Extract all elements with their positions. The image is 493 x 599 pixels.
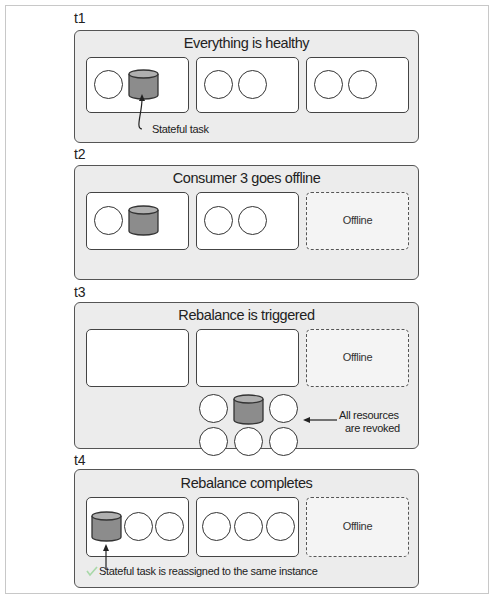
annotation-revoked-line1: All resources	[339, 409, 399, 421]
step-label-t3: t3	[74, 284, 85, 300]
annotation-revoked-line2: are revoked	[345, 422, 400, 434]
task-icon	[94, 206, 123, 235]
annotation-reassigned: Stateful task is reassigned to the same …	[99, 565, 318, 577]
stateful-task-icon	[128, 205, 159, 236]
step-label-t1: t1	[74, 10, 85, 26]
panel-t1: Everything is healthy Stateful task	[74, 30, 419, 143]
step-label-t2: t2	[74, 146, 85, 162]
panel-t2: Consumer 3 goes offline Offline	[74, 165, 419, 280]
offline-label: Offline	[307, 214, 408, 226]
panel-title: Consumer 3 goes offline	[75, 170, 418, 186]
panel-t4: Rebalance completes Offline Stateful tas…	[74, 469, 419, 588]
curved-arrow-icon	[75, 31, 420, 144]
consumer-1	[86, 192, 189, 250]
panel-t3: Rebalance is triggered Offline All resou…	[74, 302, 419, 449]
task-icon	[238, 206, 267, 235]
task-icon	[204, 206, 233, 235]
consumer-3-offline: Offline	[306, 192, 409, 250]
step-label-t4: t4	[74, 452, 85, 468]
annotation-stateful-task: Stateful task	[152, 123, 209, 135]
check-icon	[86, 566, 98, 576]
consumer-2	[196, 192, 299, 250]
